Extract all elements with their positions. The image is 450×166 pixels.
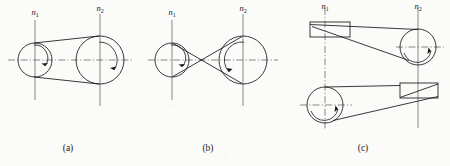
panel-c-half-crossed-belt-drive: n1 n2 (c) [300,1,444,154]
panel-a-driven-rotation-arrow [99,42,117,70]
panel-c-top-rotation-arrow [404,51,431,62]
belt-drive-figure: n1 n2 (a) n1 n2 (b) [0,0,450,166]
panel-b-driver-rotation-arrow [171,45,186,67]
panel-b-driven-label: n2 [239,3,246,14]
panel-b-driven-rotation-arrow [224,42,244,72]
panel-c-driver-label: n1 [321,1,328,12]
panel-a-driver-arrowhead [42,63,49,66]
panel-a-driver-label: n1 [31,7,38,18]
panel-c-lower-belt-span-upper [325,86,400,88]
panel-a-caption: (a) [63,143,74,154]
panel-c-bottom-pulley-face-view [307,87,343,123]
panel-c-caption: (c) [358,143,369,154]
panel-c-upper-belt-span-upper [310,25,418,30]
panel-a-driven-label: n2 [96,3,103,14]
panel-c-upper-belt-span-lower [312,27,409,61]
panel-a-belt-upper-span [34,36,99,43]
panel-b-driver-arrowhead [179,64,186,67]
panel-c-top-pulley-edge-view [310,22,350,37]
panel-b-crossed-belt-drive: n1 n2 (b) [148,3,278,154]
panel-c-bottom-pulley-twist-line [400,84,438,98]
panel-a-driven-arrowhead [110,67,117,71]
panel-b-caption: (b) [202,143,213,154]
panel-a-belt-lower-span [34,77,99,84]
panel-c-driven-label: n2 [414,1,421,12]
panel-b-driver-label: n1 [168,7,175,18]
panel-c-bottom-rotation-arrow [311,109,338,120]
panel-c-lower-belt-span-lower [333,97,438,121]
panel-a-open-belt-drive: n1 n2 (a) [8,3,132,154]
panel-b-belt-crossing-span-2 [173,37,243,77]
panel-a-driver-rotation-arrow [34,45,48,66]
